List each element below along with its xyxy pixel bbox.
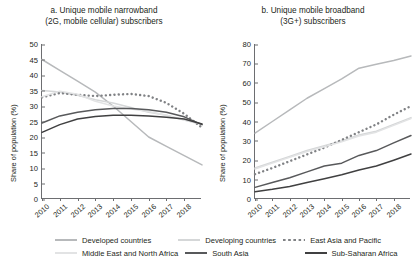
y-axis-tick-a-40: 40: [30, 71, 42, 80]
legend-label-east-asia-and-pacific: East Asia and Pacific: [310, 236, 381, 245]
y-axis-tick-a-35: 35: [30, 86, 42, 95]
panel-a-plot-area: 0510152025303540455020102011201220132014…: [41, 44, 201, 199]
x-axis-tickmark-b-2013: [307, 198, 308, 201]
chart-panel-a: a. Unique mobile narrowband (2G, mobile …: [0, 0, 208, 232]
legend-swatch-east-asia-and-pacific: [283, 236, 305, 245]
series-line-a-sub-saharan-africa: [42, 115, 202, 132]
x-axis-tickmark-b-2014: [324, 198, 325, 201]
legend-item-middle-east-and-north-africa: Middle East and North Africa: [55, 246, 178, 260]
x-axis-tickmark-b-2016: [359, 198, 360, 201]
y-axis-tick-a-5: 5: [34, 179, 42, 188]
x-axis-tickmark-a-2013: [95, 198, 96, 201]
x-axis-tickmark-a-2017: [166, 198, 167, 201]
legend-label-sub-saharan-africa: Sub-Saharan Africa: [332, 249, 398, 258]
x-axis-tickmark-a-2011: [60, 198, 61, 201]
legend-item-developing-countries: Developing countries: [178, 233, 276, 247]
y-axis-tick-a-20: 20: [30, 133, 42, 142]
x-axis-tickmark-a-2018: [184, 198, 185, 201]
y-axis-tick-b-30: 30: [243, 136, 255, 145]
x-axis-tick-b-2016: 2016: [350, 202, 368, 220]
y-axis-tick-b-0: 0: [247, 195, 255, 204]
panel-b-series-lines: [255, 44, 411, 199]
legend-label-developing-countries: Developing countries: [205, 236, 276, 245]
x-axis-tick-a-2015: 2015: [122, 202, 140, 220]
legend-item-south-asia: South Asia: [185, 246, 248, 260]
x-axis-tickmark-b-2011: [272, 198, 273, 201]
x-axis-tick-b-2013: 2013: [298, 202, 316, 220]
chart-panel-b: b. Unique mobile broadband (3G+) subscri…: [209, 0, 417, 232]
x-axis-tick-a-2010: 2010: [33, 202, 51, 220]
x-axis-tick-a-2013: 2013: [86, 202, 104, 220]
series-line-a-developed-countries: [42, 60, 202, 165]
x-axis-tickmark-b-2015: [342, 198, 343, 201]
legend-label-south-asia: South Asia: [212, 249, 248, 258]
x-axis-tick-b-2010: 2010: [246, 202, 264, 220]
panel-a-title-line1: a. Unique mobile narrowband: [51, 6, 158, 15]
y-axis-tick-a-25: 25: [30, 117, 42, 126]
x-axis-tick-a-2016: 2016: [140, 202, 158, 220]
x-axis-tick-a-2014: 2014: [104, 202, 122, 220]
panel-b-plot-area: 0102030405060708020102011201220132014201…: [254, 44, 410, 199]
x-axis-tick-b-2018: 2018: [385, 202, 403, 220]
y-axis-tick-b-80: 80: [243, 40, 255, 49]
legend-swatch-developing-countries: [178, 236, 200, 245]
x-axis-tickmark-a-2016: [149, 198, 150, 201]
x-axis-tick-b-2011: 2011: [264, 202, 282, 219]
legend-swatch-sub-saharan-africa: [305, 249, 327, 258]
x-axis-tickmark-a-2015: [131, 198, 132, 201]
panel-a-y-axis-label: Share of population (%): [9, 104, 18, 182]
x-axis-tick-b-2012: 2012: [281, 202, 299, 220]
legend-item-sub-saharan-africa: Sub-Saharan Africa: [305, 246, 398, 260]
x-axis-tickmark-a-2010: [42, 198, 43, 201]
legend-label-middle-east-and-north-africa: Middle East and North Africa: [82, 249, 178, 258]
x-axis-tick-a-2018: 2018: [175, 202, 193, 220]
panel-a-title-line2: (2G, mobile cellular) subscribers: [0, 17, 208, 28]
y-axis-tick-a-0: 0: [34, 195, 42, 204]
panel-b-y-axis-label: Share of population (%): [218, 104, 227, 182]
panel-b-title-line2: (3G+) subscribers: [209, 17, 417, 28]
y-axis-tick-b-10: 10: [243, 175, 255, 184]
series-line-b-developed-countries: [255, 56, 411, 133]
y-axis-tick-a-15: 15: [30, 148, 42, 157]
x-axis-tickmark-b-2010: [255, 198, 256, 201]
y-axis-tick-b-60: 60: [243, 78, 255, 87]
legend-row-2: Middle East and North Africa South Asia …: [0, 246, 417, 260]
x-axis-tickmark-b-2018: [394, 198, 395, 201]
x-axis-tickmark-b-2012: [290, 198, 291, 201]
y-axis-tick-b-40: 40: [243, 117, 255, 126]
y-axis-tick-b-70: 70: [243, 59, 255, 68]
y-axis-tick-b-50: 50: [243, 98, 255, 107]
x-axis-tickmark-b-2017: [376, 198, 377, 201]
x-axis-tick-a-2012: 2012: [68, 202, 86, 220]
y-axis-tick-a-10: 10: [30, 164, 42, 173]
legend-row-1: Developed countries Developing countries…: [0, 233, 417, 247]
legend-item-developed-countries: Developed countries: [55, 233, 151, 247]
x-axis-tick-a-2017: 2017: [157, 202, 175, 220]
x-axis-tick-a-2011: 2011: [51, 202, 69, 219]
legend-swatch-south-asia: [185, 249, 207, 258]
legend-swatch-middle-east-and-north-africa: [55, 249, 77, 258]
panel-b-title: b. Unique mobile broadband (3G+) subscri…: [209, 6, 417, 27]
y-axis-tick-a-30: 30: [30, 102, 42, 111]
chart-legend: Developed countries Developing countries…: [0, 233, 417, 267]
x-axis-tick-b-2017: 2017: [367, 202, 385, 220]
panel-b-title-line1: b. Unique mobile broadband: [262, 6, 365, 15]
y-axis-tick-a-50: 50: [30, 40, 42, 49]
panel-a-title: a. Unique mobile narrowband (2G, mobile …: [0, 6, 208, 27]
legend-swatch-developed-countries: [55, 236, 77, 245]
legend-item-east-asia-and-pacific: East Asia and Pacific: [283, 233, 381, 247]
x-axis-tickmark-a-2014: [113, 198, 114, 201]
x-axis-tick-b-2015: 2015: [333, 202, 351, 220]
x-axis-tickmark-a-2012: [78, 198, 79, 201]
y-axis-tick-a-45: 45: [30, 55, 42, 64]
panel-a-series-lines: [42, 44, 202, 199]
x-axis-tick-b-2014: 2014: [315, 202, 333, 220]
y-axis-tick-b-20: 20: [243, 156, 255, 165]
figure: a. Unique mobile narrowband (2G, mobile …: [0, 0, 417, 267]
legend-label-developed-countries: Developed countries: [82, 236, 151, 245]
